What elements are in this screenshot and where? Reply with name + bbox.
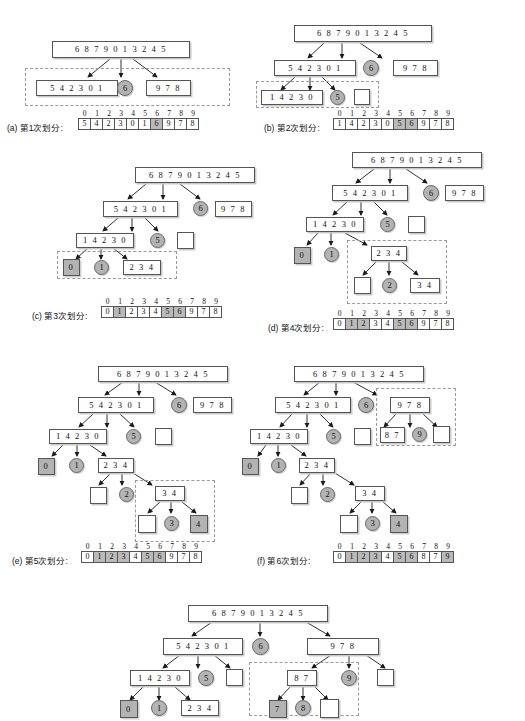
result-index: 2 xyxy=(110,543,114,551)
panel-f-result-strip: 00112233445566788799 xyxy=(333,543,454,563)
result-index: 4 xyxy=(131,110,135,118)
node-r3: 2 3 4 xyxy=(299,458,335,473)
result-index: 6 xyxy=(158,543,162,551)
node-p2: 5 xyxy=(380,217,395,232)
panel-b: 6 8 7 9 0 1 3 2 4 5 5 4 2 3 0 1 6 9 7 8 … xyxy=(262,0,525,140)
result-cell: 98 xyxy=(210,298,222,318)
result-index: 0 xyxy=(83,110,87,118)
node-r4: 3 4 xyxy=(410,278,440,293)
node-r4: 3 4 xyxy=(355,486,385,501)
panel-e-result-strip: 00112233445566798798 xyxy=(81,543,202,563)
panel-e-caption: (e) 第5次划分: xyxy=(12,555,68,567)
node-r4: 3 4 xyxy=(155,486,185,501)
result-index: 9 xyxy=(446,310,450,318)
node-l2: 1 4 2 3 0 xyxy=(261,90,323,105)
result-value: 8 xyxy=(189,551,202,563)
result-index: 3 xyxy=(374,110,378,118)
result-index: 3 xyxy=(142,298,146,306)
result-index: 4 xyxy=(134,543,138,551)
node-l2: 1 4 2 3 0 xyxy=(250,429,308,444)
result-index: 2 xyxy=(362,110,366,118)
node-r2 xyxy=(226,669,243,686)
result-index: 7 xyxy=(422,110,426,118)
node-l1: 5 4 2 3 0 1 xyxy=(103,201,178,217)
panel-b-result-strip: 01142233405566798798 xyxy=(333,110,454,130)
result-index: 0 xyxy=(338,310,342,318)
node-r1: 9 7 8 xyxy=(307,638,379,655)
result-index: 6 xyxy=(410,110,414,118)
node-p3: 1 xyxy=(324,247,339,262)
node-p2: 5 xyxy=(150,233,165,248)
result-index: 0 xyxy=(86,543,90,551)
result-index: 7 xyxy=(422,310,426,318)
node-l5 xyxy=(138,515,156,533)
result-index: 4 xyxy=(386,310,390,318)
result-index: 5 xyxy=(166,298,170,306)
result-index: 1 xyxy=(350,310,354,318)
panel-e: 6 8 7 9 0 1 3 2 4 5 5 4 2 3 0 1 6 9 7 8 … xyxy=(0,355,262,585)
node-pivot: 6 xyxy=(117,80,133,96)
node-l2: 1 4 2 3 0 xyxy=(49,429,107,444)
node-r3: 2 3 4 xyxy=(371,246,407,261)
result-value: 8 xyxy=(441,118,454,130)
node-rlr xyxy=(320,699,339,718)
result-index: 8 xyxy=(434,543,438,551)
node-p5: 3 xyxy=(164,516,179,531)
result-index: 1 xyxy=(350,543,354,551)
node-p3: 1 xyxy=(69,458,84,473)
panel-c: 6 8 7 9 0 1 3 2 4 5 5 4 2 3 0 1 6 9 7 8 … xyxy=(0,155,262,340)
panel-d-caption: (d) 第4次划分: xyxy=(268,322,324,334)
node-l3: 0 xyxy=(63,259,80,276)
node-p4: 2 xyxy=(119,487,134,502)
node-root: 6 8 7 9 0 1 3 2 4 5 xyxy=(52,41,190,58)
node-r5: 4 xyxy=(190,515,208,533)
node-r5: 4 xyxy=(390,515,408,533)
node-l4 xyxy=(291,487,308,504)
result-index: 5 xyxy=(398,110,402,118)
node-rlp: 8 xyxy=(295,700,311,716)
result-index: 8 xyxy=(434,110,438,118)
panel-c-result-strip: 00112233445566798798 xyxy=(101,298,222,318)
node-r2 xyxy=(155,428,172,445)
node-p2: 5 xyxy=(126,429,141,444)
node-p3: 1 xyxy=(94,260,109,275)
node-r1: 9 7 8 xyxy=(393,60,438,76)
result-value: 8 xyxy=(441,318,454,330)
result-index: 5 xyxy=(398,310,402,318)
node-l3: 0 xyxy=(294,247,311,264)
node-r3: 2 3 4 xyxy=(98,458,134,473)
panel-d: 6 8 7 9 0 1 3 2 4 5 5 4 2 3 0 1 6 9 7 8 … xyxy=(262,140,525,340)
node-r2 xyxy=(408,216,425,233)
node-r1: 9 7 8 xyxy=(390,397,430,413)
result-index: 7 xyxy=(167,110,171,118)
node-r2 xyxy=(354,89,370,105)
result-index: 9 xyxy=(194,543,198,551)
node-rl: 8 7 xyxy=(287,670,317,686)
node-r2 xyxy=(354,428,371,445)
result-index: 6 xyxy=(410,543,414,551)
result-index: 2 xyxy=(130,298,134,306)
result-index: 3 xyxy=(119,110,123,118)
node-r1: 9 7 8 xyxy=(445,185,484,201)
result-index: 5 xyxy=(398,543,402,551)
result-value: 8 xyxy=(186,118,199,130)
node-p3: 1 xyxy=(271,458,286,473)
node-rp: 9 xyxy=(341,670,357,686)
node-p3: 1 xyxy=(151,700,167,716)
result-index: 4 xyxy=(386,543,390,551)
panel-g: 6 8 7 9 0 1 3 2 4 5 5 4 2 3 0 1 6 9 7 8 … xyxy=(0,595,525,721)
result-index: 4 xyxy=(154,298,158,306)
node-rll: 7 xyxy=(269,700,287,718)
node-root: 6 8 7 9 0 1 3 2 4 5 xyxy=(188,605,328,622)
node-l1: 5 4 2 3 0 1 xyxy=(275,397,351,413)
result-cell: 98 xyxy=(442,310,454,330)
node-p2: 5 xyxy=(198,670,214,686)
node-right: 9 7 8 xyxy=(146,80,191,96)
result-index: 7 xyxy=(170,543,174,551)
node-r1: 9 7 8 xyxy=(215,201,252,217)
node-r2 xyxy=(177,232,194,249)
node-r3: 2 3 4 xyxy=(181,700,219,716)
result-index: 9 xyxy=(446,543,450,551)
result-cell: 99 xyxy=(442,543,454,563)
panel-a-result-strip: 05142233405166798798 xyxy=(78,110,199,130)
